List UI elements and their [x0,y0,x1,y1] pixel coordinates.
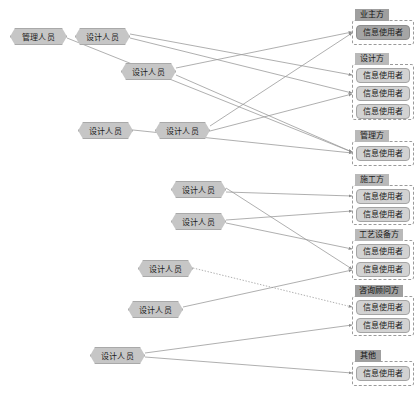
edge-a7-to-u8 [226,223,352,249]
actor-node-a6[interactable]: 设计人员 [171,181,226,198]
diagram-canvas: 业主方信息使用者设计方信息使用者信息使用者信息使用者管理方信息使用者施工方信息使… [0,0,419,396]
information-user-node-u3[interactable]: 信息使用者 [356,86,410,101]
edge-a6-to-u6 [226,192,352,196]
edge-a6-to-u9 [226,188,352,269]
edge-a3-to-u1 [176,32,352,68]
edge-a10-to-u12 [145,357,352,373]
edge-a8-to-u10 [193,268,352,307]
information-user-node-u4[interactable]: 信息使用者 [356,104,410,119]
actor-node-a1[interactable]: 管理人员 [10,28,67,45]
edge-a5-to-u1 [210,33,352,126]
group-title-g3[interactable]: 管理方 [355,130,389,142]
information-user-node-u10[interactable]: 信息使用者 [356,300,410,315]
actor-node-a4[interactable]: 设计人员 [78,122,133,139]
information-user-node-u7[interactable]: 信息使用者 [356,207,410,222]
edge-a7-to-u7 [226,211,352,220]
information-user-node-u9[interactable]: 信息使用者 [356,262,410,277]
edge-a3-to-u5 [176,75,352,152]
actor-node-a2[interactable]: 设计人员 [75,28,130,45]
group-title-g4[interactable]: 施工方 [355,174,389,186]
information-user-node-u11[interactable]: 信息使用者 [356,318,410,333]
information-user-node-u5[interactable]: 信息使用者 [356,146,410,161]
group-title-g1[interactable]: 业主方 [355,9,389,21]
information-user-node-u6[interactable]: 信息使用者 [356,189,410,204]
group-title-g5[interactable]: 工艺设备方 [355,229,403,241]
actor-node-a8[interactable]: 设计人员 [138,260,193,277]
information-user-node-u12[interactable]: 信息使用者 [356,366,410,381]
information-user-node-u8[interactable]: 信息使用者 [356,244,410,259]
actor-node-a10[interactable]: 设计人员 [90,347,145,364]
edge-a5-to-u3 [210,94,352,131]
edge-a10-to-u11 [145,325,352,353]
edge-a9-to-u9 [183,270,352,307]
information-user-node-u2[interactable]: 信息使用者 [356,68,410,83]
group-title-g6[interactable]: 咨询顾问方 [355,285,403,297]
actor-node-a7[interactable]: 设计人员 [171,213,226,230]
actor-node-a5[interactable]: 设计人员 [155,122,210,139]
group-title-g7[interactable]: 其他 [355,350,381,362]
actor-node-a9[interactable]: 设计人员 [128,301,183,318]
group-title-g2[interactable]: 设计方 [355,53,389,65]
actor-node-a3[interactable]: 设计人员 [121,63,176,80]
information-user-node-u1[interactable]: 信息使用者 [356,25,410,40]
